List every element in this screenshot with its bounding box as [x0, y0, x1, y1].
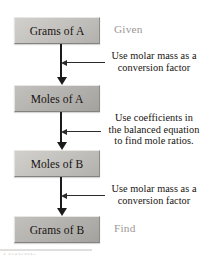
annotation-line: Use coefficients in — [99, 112, 209, 124]
arrow-head — [57, 208, 67, 216]
leader-arrow-shaft — [67, 131, 101, 132]
annotation-line: to find mole ratios. — [99, 135, 209, 147]
caption-strip: FIGURE — [0, 253, 210, 263]
leader-arrow-icon-molar-mass-b — [61, 191, 105, 200]
side-label-find: Find — [114, 222, 136, 234]
leader-arrow-icon-mole-ratio — [61, 127, 101, 136]
caption-rule — [0, 249, 92, 251]
annotation-mole-ratio: Use coefficients in the balanced equatio… — [99, 112, 209, 147]
annotation-line: Use molar mass as a — [100, 183, 208, 195]
leader-arrow-icon-molar-mass-a — [61, 58, 105, 67]
node-label-grams-of-b: Grams of B — [30, 224, 85, 236]
node-label-grams-of-a: Grams of A — [30, 25, 85, 37]
annotation-line: the balanced equation — [99, 124, 209, 136]
node-label-moles-of-a: Moles of A — [31, 93, 84, 105]
annotation-line: Use molar mass as a — [100, 50, 208, 62]
annotation-line: conversion factor — [100, 62, 208, 74]
mole-conversion-flowchart: Grams of A Moles of A Moles of B Grams o… — [0, 0, 210, 263]
annotation-molar-mass-b: Use molar mass as a conversion factor — [100, 183, 208, 206]
arrow-head — [57, 77, 67, 85]
annotation-molar-mass-a: Use molar mass as a conversion factor — [100, 50, 208, 73]
flowchart-node-moles-of-b: Moles of B — [14, 150, 100, 177]
flowchart-node-grams-of-b: Grams of B — [14, 216, 100, 243]
node-label-moles-of-b: Moles of B — [31, 158, 84, 170]
flowchart-node-grams-of-a: Grams of A — [14, 17, 100, 44]
side-label-given: Given — [114, 23, 143, 35]
arrow-head — [57, 142, 67, 150]
flowchart-node-moles-of-a: Moles of A — [14, 85, 100, 112]
annotation-line: conversion factor — [100, 195, 208, 207]
caption-text: FIGURE — [3, 253, 36, 257]
